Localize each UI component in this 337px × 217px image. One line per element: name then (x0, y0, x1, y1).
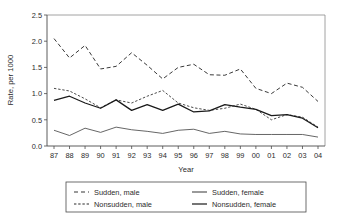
chart-figure: 0.00.51.01.52.02.5 878889909192939495969… (0, 0, 337, 217)
x-tick-label: 00 (252, 151, 260, 160)
y-tick-label: 0.0 (32, 142, 42, 151)
x-axis-tick-labels: 878889909192939495969798990001020304 (50, 151, 322, 160)
series-line-sudden-female (54, 127, 318, 137)
x-tick-label: 02 (283, 151, 291, 160)
x-tick-label: 88 (65, 151, 73, 160)
x-tick-label: 01 (267, 151, 275, 160)
x-tick-label: 98 (221, 151, 229, 160)
x-axis-title: Year (178, 165, 194, 174)
legend-label: Nonsudden, female (212, 200, 276, 209)
legend-label: Sudden, female (212, 188, 264, 197)
x-tick-label: 97 (205, 151, 213, 160)
y-axis-title: Rate, per 1000 (6, 55, 15, 105)
y-tick-label: 2.0 (32, 37, 42, 46)
x-tick-label: 04 (314, 151, 322, 160)
y-tick-label: 1.5 (32, 63, 42, 72)
x-tick-label: 94 (159, 151, 167, 160)
x-tick-label: 99 (236, 151, 244, 160)
x-tick-label: 89 (81, 151, 89, 160)
x-tick-label: 95 (174, 151, 182, 160)
x-tick-label: 92 (128, 151, 136, 160)
legend-label: Sudden, male (94, 188, 140, 197)
series-line-sudden-male (54, 39, 318, 102)
x-tick-label: 93 (143, 151, 151, 160)
x-tick-label: 87 (50, 151, 58, 160)
line-chart: 0.00.51.01.52.02.5 878889909192939495969… (0, 0, 337, 217)
legend: Sudden, maleSudden, femaleNonsudden, mal… (66, 182, 306, 212)
x-tick-label: 03 (298, 151, 306, 160)
series-line-nonsudden-female (54, 96, 318, 127)
y-axis-tick-labels: 0.00.51.01.52.02.5 (32, 11, 42, 151)
x-tick-label: 96 (190, 151, 198, 160)
y-tick-label: 0.5 (32, 116, 42, 125)
x-tick-label: 91 (112, 151, 120, 160)
y-tick-label: 2.5 (32, 11, 42, 20)
x-tick-label: 90 (96, 151, 104, 160)
data-series-group (54, 39, 318, 138)
legend-label: Nonsudden, male (94, 200, 152, 209)
y-tick-label: 1.0 (32, 89, 42, 98)
plot-frame (47, 15, 325, 146)
